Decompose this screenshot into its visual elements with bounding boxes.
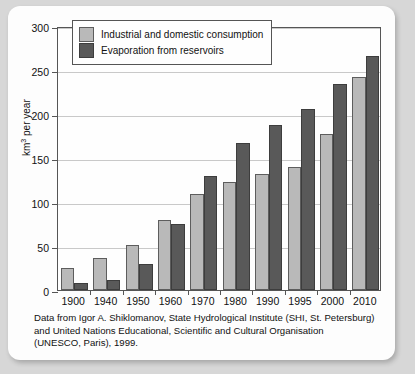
y-axis-tick-label: 300 (31, 22, 49, 34)
y-axis-tick-label: 50 (37, 242, 49, 254)
y-axis-title-exponent: 3 (20, 139, 27, 143)
legend-swatch-evaporation (79, 43, 94, 58)
bar-2000-series1 (320, 134, 334, 290)
bar-1950-series2 (139, 264, 153, 290)
y-axis-title: km3 per year (20, 99, 32, 156)
x-axis-tick-mark (220, 290, 221, 295)
x-axis-tick-mark (252, 290, 253, 295)
bar-1960-series2 (171, 224, 185, 290)
bar-1940-series2 (107, 280, 121, 290)
x-axis-label-1980: 1980 (224, 295, 247, 307)
bar-1980-series1 (223, 182, 237, 290)
bars-area (58, 28, 380, 290)
x-axis-tick-mark (188, 290, 189, 295)
bar-1995-series2 (301, 109, 315, 290)
legend-item: Industrial and domestic consumption (79, 27, 263, 42)
bar-2010-series1 (352, 77, 366, 290)
y-axis-tick-label: 150 (31, 154, 49, 166)
x-axis-label-1970: 1970 (191, 295, 214, 307)
x-axis-label-2000: 2000 (321, 295, 344, 307)
x-axis-label-1950: 1950 (126, 295, 149, 307)
y-axis-tick-label: 100 (31, 198, 49, 210)
bar-1900-series1 (61, 268, 75, 290)
bar-2000-series2 (333, 84, 347, 290)
x-axis-tick-mark (155, 290, 156, 295)
chart-legend: Industrial and domestic consumption Evap… (72, 20, 272, 65)
legend-item: Evaporation from reservoirs (79, 43, 263, 58)
legend-swatch-industrial (79, 27, 94, 42)
x-axis-tick-mark (317, 290, 318, 295)
x-axis-label-1995: 1995 (288, 295, 311, 307)
x-axis-label-2010: 2010 (353, 295, 376, 307)
bar-1990-series1 (255, 174, 269, 290)
legend-label-industrial: Industrial and domestic consumption (101, 29, 263, 40)
bar-1950-series1 (126, 245, 140, 290)
bar-1960-series1 (158, 220, 172, 290)
x-axis-label-1990: 1990 (256, 295, 279, 307)
x-axis-label-1900: 1900 (62, 295, 85, 307)
legend-label-evaporation: Evaporation from reservoirs (101, 45, 224, 56)
bar-2010-series2 (366, 56, 380, 290)
figure-panel: km3 per year 050100150200250300 19001940… (8, 6, 395, 360)
y-axis-tick-label: 200 (31, 110, 49, 122)
x-axis-tick-mark (350, 290, 351, 295)
bar-1980-series2 (236, 143, 250, 290)
caption-line-2: and United Nations Educational, Scientif… (34, 325, 384, 338)
bar-1990-series2 (269, 125, 283, 290)
caption-line-3: (UNESCO, Paris), 1999. (34, 337, 384, 350)
bar-1940-series1 (93, 258, 107, 290)
x-axis-tick-mark (90, 290, 91, 295)
y-axis-tick-label: 250 (31, 66, 49, 78)
y-axis-tick-label: 0 (43, 286, 49, 298)
plot-area: 050100150200250300 (57, 27, 381, 291)
x-axis-label-1940: 1940 (94, 295, 117, 307)
y-axis-tick-mark (52, 292, 58, 293)
bar-1900-series2 (74, 283, 88, 290)
bar-1995-series1 (288, 167, 302, 290)
source-caption: Data from Igor A. Shiklomanov, State Hyd… (34, 312, 384, 350)
x-axis-tick-mark (285, 290, 286, 295)
x-axis-label-1960: 1960 (159, 295, 182, 307)
caption-line-1: Data from Igor A. Shiklomanov, State Hyd… (34, 312, 384, 325)
bar-1970-series2 (204, 176, 218, 290)
bar-1970-series1 (190, 194, 204, 290)
x-axis-tick-mark (123, 290, 124, 295)
